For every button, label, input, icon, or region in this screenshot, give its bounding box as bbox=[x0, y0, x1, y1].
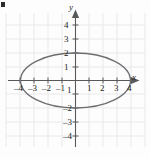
x-tick-label-pos3: 3 bbox=[114, 84, 119, 93]
y-tick-label-pos3: 3 bbox=[64, 35, 69, 44]
y-tick-label-pos4: 4 bbox=[64, 21, 69, 30]
x-axis-label: x bbox=[132, 73, 136, 82]
y-axis bbox=[72, 10, 79, 148]
x-tick-label-pos2: 2 bbox=[100, 84, 105, 93]
x-tick-label-pos4: 4 bbox=[127, 84, 132, 93]
y-tick-label-pos2: 2 bbox=[64, 49, 69, 58]
x-tick-label-neg4: –4 bbox=[14, 84, 23, 93]
x-tick-label-neg2: –2 bbox=[42, 84, 51, 93]
y-tick-label-neg1: 1 bbox=[67, 86, 72, 95]
ellipse-graph-figure: x y –4 –3 –2 –1 1 2 3 4 4 3 2 1 1 –2 –3 … bbox=[0, 0, 150, 159]
x-tick-label-neg1: –1 bbox=[56, 84, 65, 93]
x-tick-label-neg3: –3 bbox=[28, 84, 37, 93]
y-axis-label: y bbox=[69, 3, 73, 12]
x-tick-label-pos1: 1 bbox=[87, 84, 92, 93]
y-tick-label-pos1: 1 bbox=[64, 63, 69, 72]
y-tick-label-neg2: –2 bbox=[63, 104, 72, 113]
y-tick-label-neg4: –4 bbox=[63, 132, 72, 141]
y-tick-label-neg3: –3 bbox=[63, 118, 72, 127]
coordinate-plane bbox=[0, 0, 150, 159]
